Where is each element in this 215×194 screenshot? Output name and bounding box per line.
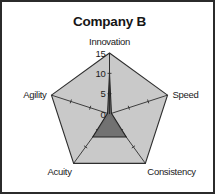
tick-label-0: 0 — [101, 109, 106, 120]
axis-label-speed: Speed — [173, 89, 199, 100]
axis-label-agility: Agility — [23, 89, 47, 100]
chart-canvas: Company B Innovation Speed Consistency A… — [5, 5, 210, 189]
tick-label-5: 5 — [101, 88, 106, 99]
tick-label-10: 10 — [96, 68, 106, 79]
axis-label-consistency: Consistency — [147, 166, 196, 177]
radar-chart-svg: Company B Innovation Speed Consistency A… — [5, 5, 210, 189]
tick-label-15: 15 — [96, 48, 106, 59]
chart-title: Company B — [73, 14, 147, 29]
axis-label-innovation: Innovation — [89, 36, 130, 47]
chart-frame: Company B Innovation Speed Consistency A… — [0, 0, 215, 194]
axis-label-acuity: Acuity — [48, 166, 73, 177]
